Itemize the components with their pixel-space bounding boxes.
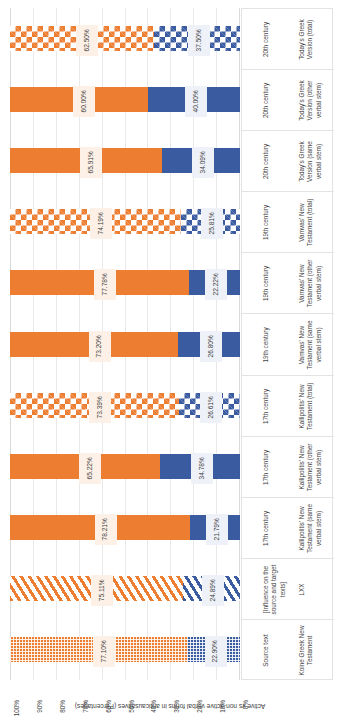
data-label-active: 77.78% bbox=[94, 269, 116, 300]
data-label-nonactive: 24.89% bbox=[202, 575, 224, 606]
category-label-cell: 20th centuryToday's Greek Version (other… bbox=[242, 70, 334, 131]
plot-area: 62.50%37.50%60.00%40.00%65.91%34.09%74.1… bbox=[10, 8, 240, 680]
data-label-active: 60.00% bbox=[73, 86, 95, 117]
data-label-active: 65.22% bbox=[79, 453, 101, 484]
data-label-active: 65.91% bbox=[80, 147, 102, 178]
category-label-cell: 20th centuryToday's Greek Version (same … bbox=[242, 131, 334, 192]
category-label-cell: 17th centuryKallipolitis' New Testament … bbox=[242, 376, 334, 437]
category-group-label: [Influence on the source and target text… bbox=[262, 561, 287, 618]
category-label-table: 20th centuryToday's Greek Version (total… bbox=[241, 8, 333, 680]
category-group-label: 17th century bbox=[262, 500, 270, 557]
category-name-label: LXX bbox=[298, 561, 306, 618]
data-label-nonactive: 25.81% bbox=[201, 208, 223, 239]
data-label-nonactive: 40.00% bbox=[185, 86, 207, 117]
category-name-label: Kallipolitis' New Testament (other verba… bbox=[298, 439, 323, 496]
data-label-nonactive: 26.80% bbox=[200, 331, 222, 362]
data-label-active: 62.50% bbox=[76, 25, 98, 56]
data-label-active: 75.11% bbox=[91, 575, 113, 606]
chart-figure: 62.50%37.50%60.00%40.00%65.91%34.09%74.1… bbox=[0, 0, 343, 719]
data-label-nonactive: 21.79% bbox=[206, 514, 228, 545]
category-group-label: 20th century bbox=[262, 133, 270, 190]
category-name-label: Koine Greek New Testament bbox=[298, 622, 315, 679]
data-label-nonactive: 34.09% bbox=[192, 147, 214, 178]
category-label-cell: 19th centuryVamvas' New Testament (same … bbox=[242, 314, 334, 376]
category-group-label: 19th century bbox=[262, 255, 270, 312]
category-label-cell: 19th centuryVamvas' New Testament (other… bbox=[242, 253, 334, 314]
category-label-cell: Source textKoine Greek New Testament bbox=[242, 620, 334, 681]
category-name-label: Vamvas' New Testament (other verbal stem… bbox=[298, 255, 323, 312]
category-group-label: 17th century bbox=[262, 378, 270, 435]
category-group-label: 19th century bbox=[262, 316, 270, 374]
category-group-label: 17th century bbox=[262, 439, 270, 496]
data-label-nonactive: 37.50% bbox=[188, 25, 210, 56]
category-label-cell: 17th centuryKallipolitis' New Testament … bbox=[242, 437, 334, 498]
data-label-active: 73.20% bbox=[89, 331, 111, 362]
category-group-label: Source text bbox=[262, 622, 270, 679]
category-name-label: Today's Greek Version (same verbal stem) bbox=[298, 133, 323, 190]
category-group-label: 19th century bbox=[262, 194, 270, 251]
data-label-active: 73.39% bbox=[89, 392, 111, 423]
category-name-label: Today's Greek Version (total) bbox=[298, 11, 315, 68]
data-label-active: 78.21% bbox=[95, 514, 117, 545]
data-label-nonactive: 22.90% bbox=[205, 636, 227, 667]
category-group-label: 20th century bbox=[262, 11, 270, 68]
data-label-active: 74.19% bbox=[90, 208, 112, 239]
category-label-cell: [Influence on the source and target text… bbox=[242, 559, 334, 620]
category-label-cell: 17th centuryKallipolitis' New Testament … bbox=[242, 498, 334, 559]
category-name-label: Kallipolitis' New Testament (same verbal… bbox=[298, 500, 323, 557]
data-label-nonactive: 22.22% bbox=[205, 269, 227, 300]
category-name-label: Vamvas' New Testament (total) bbox=[298, 194, 315, 251]
data-label-active: 77.10% bbox=[93, 636, 115, 667]
category-name-label: Today's Greek Version (other verbal stem… bbox=[298, 72, 323, 129]
category-label-cell: 20th centuryToday's Greek Version (total… bbox=[242, 9, 334, 70]
category-label-cell: 19th centuryVamvas' New Testament (total… bbox=[242, 192, 334, 253]
data-label-nonactive: 34.78% bbox=[191, 453, 213, 484]
category-group-label: 20th century bbox=[262, 72, 270, 129]
category-name-label: Vamvas' New Testament (same verbal stem) bbox=[298, 316, 323, 374]
axis-tick-labels: 100%90%80%70%60%50%40%30%20%10%0% bbox=[10, 683, 240, 703]
data-label-nonactive: 26.61% bbox=[200, 392, 222, 423]
category-name-label: Kallipolitis' New Testament (total) bbox=[298, 378, 315, 435]
axis-title: Active vs non-active verbal forms in ant… bbox=[5, 703, 335, 710]
